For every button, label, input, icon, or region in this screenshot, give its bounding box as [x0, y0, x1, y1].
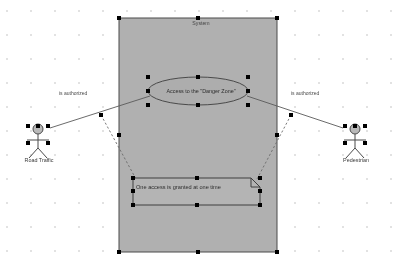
resize-handle-se[interactable] [246, 103, 250, 107]
note-box-shape[interactable] [133, 178, 260, 205]
resize-handle-n[interactable] [353, 124, 357, 128]
resize-handle-se[interactable] [275, 250, 279, 254]
resize-handle-se[interactable] [258, 203, 262, 207]
resize-handle-n[interactable] [36, 124, 40, 128]
resize-handle-se[interactable] [363, 141, 367, 145]
resize-handle-n[interactable] [195, 176, 199, 180]
resize-handle-sw[interactable] [131, 203, 135, 207]
system-boundary-box[interactable] [119, 18, 277, 252]
connector-handle-left-assoc[interactable] [99, 113, 103, 117]
resize-handle-nw[interactable] [26, 124, 30, 128]
resize-handle-nw[interactable] [117, 16, 121, 20]
actor-road-traffic[interactable] [27, 124, 49, 158]
resize-handle-nw[interactable] [146, 75, 150, 79]
actor-label-pedestrian: Pedestrian [320, 158, 392, 163]
actor-pedestrian[interactable] [344, 124, 366, 158]
resize-handle-ne[interactable] [258, 176, 262, 180]
actor-label-road-traffic: Road Traffic [0, 158, 78, 163]
resize-handle-n[interactable] [196, 75, 200, 79]
diagram-canvas[interactable]: System Access to the "Danger Zone" One a… [0, 0, 402, 270]
resize-handle-ne[interactable] [275, 16, 279, 20]
resize-handle-e[interactable] [275, 133, 279, 137]
note-text: One access is granted at one time [136, 185, 221, 191]
resize-handle-s[interactable] [196, 103, 200, 107]
association-label-pedestrian: is authorized [291, 91, 319, 96]
resize-handle-ne[interactable] [363, 124, 367, 128]
resize-handle-nw[interactable] [131, 176, 135, 180]
resize-handle-sw[interactable] [26, 141, 30, 145]
resize-handle-s[interactable] [196, 250, 200, 254]
resize-handle-nw[interactable] [343, 124, 347, 128]
resize-handle-s[interactable] [195, 203, 199, 207]
resize-handle-ne[interactable] [246, 75, 250, 79]
resize-handle-w[interactable] [131, 189, 135, 193]
resize-handle-sw[interactable] [117, 250, 121, 254]
resize-handle-ne[interactable] [46, 124, 50, 128]
diagram-svg-layer [0, 0, 402, 270]
resize-handle-se[interactable] [46, 141, 50, 145]
association-label-road-traffic: is authorized [59, 91, 87, 96]
resize-handle-sw[interactable] [146, 103, 150, 107]
resize-handle-e[interactable] [258, 189, 262, 193]
resize-handle-sw[interactable] [343, 141, 347, 145]
connector-handle-right-assoc[interactable] [289, 113, 293, 117]
system-boundary-label: System [0, 21, 402, 26]
resize-handle-w[interactable] [117, 133, 121, 137]
